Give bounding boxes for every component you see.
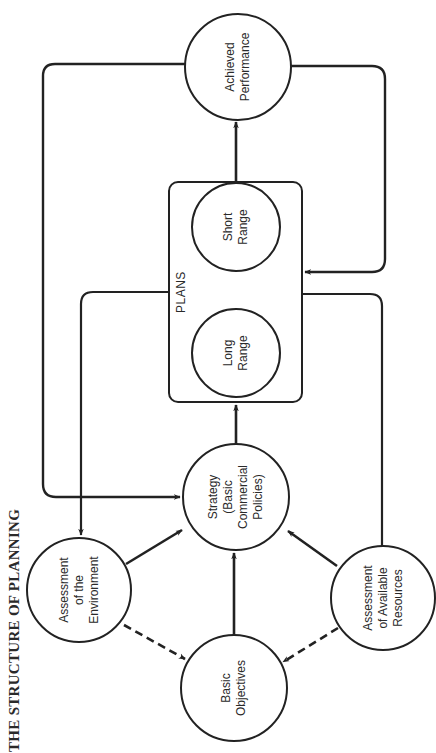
environment-to-objectives-dashed-arrow — [124, 625, 185, 659]
node-assessment-resources: Assessment of Available Resources — [331, 546, 435, 650]
svg-text:Achieved: Achieved — [223, 42, 237, 91]
plans-to-resources-line — [302, 294, 382, 546]
svg-text:Basic: Basic — [219, 673, 233, 702]
svg-text:Performance: Performance — [238, 32, 252, 101]
svg-text:Commercial: Commercial — [236, 465, 250, 529]
svg-text:Strategy: Strategy — [206, 475, 220, 520]
plans-to-environment-line — [81, 123, 169, 535]
svg-text:of the: of the — [72, 575, 86, 605]
node-short-range: Short Range — [192, 183, 280, 271]
svg-text:(Basic: (Basic — [221, 480, 235, 513]
svg-text:Resources: Resources — [391, 569, 405, 626]
plans-label: PLANS — [174, 271, 188, 313]
node-assessment-environment: Assessment of the Environment — [27, 538, 131, 642]
environment-to-strategy-arrow — [126, 530, 182, 564]
svg-text:Assessment: Assessment — [57, 557, 71, 623]
feedback-loop-left-line — [43, 64, 185, 497]
svg-text:Policies): Policies) — [251, 474, 265, 519]
diagram-title: THE STRUCTURE OF PLANNING — [6, 509, 22, 752]
feedback-loop-right-line — [291, 66, 385, 272]
node-basic-objectives: Basic Objectives — [181, 635, 287, 741]
resources-to-objectives-dashed-arrow — [283, 628, 338, 662]
svg-text:Long: Long — [221, 340, 235, 367]
svg-text:Objectives: Objectives — [234, 660, 248, 716]
svg-text:Range: Range — [236, 335, 250, 371]
node-strategy: Strategy (Basic Commercial Policies) — [183, 444, 289, 550]
svg-text:Short: Short — [221, 212, 235, 241]
svg-text:Assessment: Assessment — [361, 565, 375, 631]
svg-text:Environment: Environment — [87, 556, 101, 624]
node-achieved-performance: Achieved Performance — [185, 14, 291, 120]
resources-to-strategy-arrow — [288, 531, 337, 566]
svg-text:of Available: of Available — [376, 567, 390, 628]
svg-text:Range: Range — [236, 209, 250, 245]
node-long-range: Long Range — [192, 309, 280, 397]
planning-structure-diagram: THE STRUCTURE OF PLANNING PLANS Achieved… — [0, 0, 436, 753]
